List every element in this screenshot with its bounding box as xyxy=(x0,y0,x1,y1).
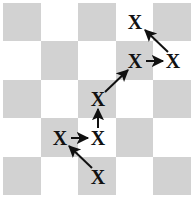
board-square-r0c1[interactable] xyxy=(41,3,79,41)
board-square-r4c0[interactable] xyxy=(3,157,41,195)
board-diagram: XXXXXXX xyxy=(0,0,196,200)
board-square-r2c3[interactable] xyxy=(116,80,154,118)
board-square-r0c4[interactable] xyxy=(153,3,191,41)
board-square-r2c0[interactable] xyxy=(3,80,41,118)
piece-r1c3[interactable]: X xyxy=(128,51,142,71)
board-square-r4c4[interactable] xyxy=(153,157,191,195)
board-square-r3c4[interactable] xyxy=(153,118,191,156)
board-square-r1c2[interactable] xyxy=(78,41,116,79)
board-square-r1c1[interactable] xyxy=(41,41,79,79)
board-square-r2c1[interactable] xyxy=(41,80,79,118)
board-square-r0c0[interactable] xyxy=(3,3,41,41)
board-square-r3c0[interactable] xyxy=(3,118,41,156)
piece-r3c1[interactable]: X xyxy=(53,128,67,148)
board-square-r0c2[interactable] xyxy=(78,3,116,41)
piece-r2c2[interactable]: X xyxy=(91,89,105,109)
board-square-r4c1[interactable] xyxy=(41,157,79,195)
piece-r3c2[interactable]: X xyxy=(91,128,105,148)
board-square-r1c0[interactable] xyxy=(3,41,41,79)
board-square-r4c3[interactable] xyxy=(116,157,154,195)
piece-r4c2[interactable]: X xyxy=(91,167,105,187)
piece-r1c4[interactable]: X xyxy=(166,51,180,71)
board-square-r2c4[interactable] xyxy=(153,80,191,118)
piece-r0c3[interactable]: X xyxy=(128,12,142,32)
board-square-r3c3[interactable] xyxy=(116,118,154,156)
